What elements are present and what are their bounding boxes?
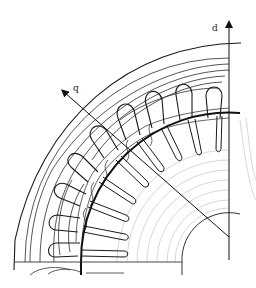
rotor-slot	[188, 119, 201, 155]
stator-outer-boundary	[14, 43, 241, 270]
rotor-slots	[82, 116, 222, 257]
d-axis-label: d	[212, 23, 218, 33]
rotor-slot	[88, 201, 129, 221]
airgap-flux-lines	[76, 108, 229, 242]
rotor-slot	[83, 226, 128, 240]
rotor-slot	[82, 250, 128, 257]
rotor-slot	[161, 126, 182, 161]
stator-slot	[49, 215, 80, 232]
rotor-slot	[216, 116, 222, 152]
flux-plot: d q	[0, 0, 256, 288]
stator-slot	[54, 183, 86, 206]
rotor-slot	[137, 138, 164, 172]
lower-partial-slots	[30, 267, 124, 275]
shaft-arc	[182, 213, 240, 275]
q-axis-label: q	[73, 83, 79, 93]
